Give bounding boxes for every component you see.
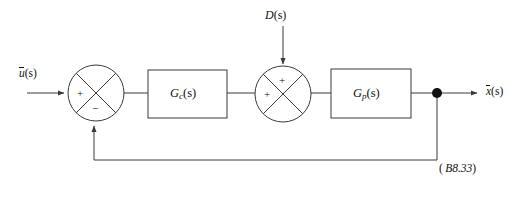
error-junction-sign-west: +: [77, 88, 83, 99]
controller-symbol: G: [170, 86, 179, 100]
equation-tag-close: ): [472, 162, 476, 174]
plant-symbol: G: [353, 86, 362, 100]
feedback-path: [94, 93, 437, 160]
disturbance-junction-sign-west: +: [264, 89, 270, 100]
output-symbol: x: [486, 85, 491, 97]
disturbance-junction-sign-north: +: [279, 75, 285, 86]
output-arg: (s): [491, 85, 503, 97]
input-arg: (s): [25, 67, 37, 79]
block-diagram-figure: u(s) x(s) D(s) Gc(s) Gp(s) + − + + ( B8.…: [0, 0, 529, 197]
disturbance-signal-label: D(s): [265, 9, 286, 21]
controller-block-label: Gc(s): [170, 87, 196, 101]
plant-arg: (s): [367, 86, 380, 100]
equation-tag-number: B8.33: [445, 162, 472, 174]
plant-block-label: Gp(s): [353, 87, 380, 101]
output-signal-label: x(s): [486, 86, 503, 98]
disturbance-arg: (s): [274, 8, 287, 22]
controller-arg: (s): [183, 86, 196, 100]
input-symbol: u: [19, 67, 25, 79]
feedback-takeoff-node: [432, 88, 442, 98]
input-signal-label: u(s): [19, 68, 37, 80]
disturbance-symbol: D: [265, 8, 274, 22]
equation-tag: ( B8.33): [439, 163, 476, 175]
error-junction-sign-south: −: [92, 103, 98, 114]
